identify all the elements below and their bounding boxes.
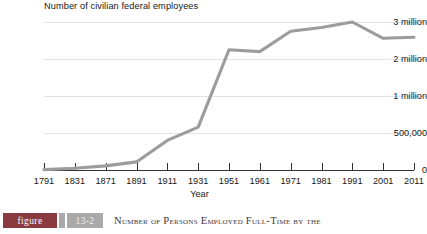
y-tick-label: 0: [385, 165, 427, 175]
x-tick-label: 1991: [342, 176, 362, 186]
x-tick-label: 1911: [157, 176, 177, 186]
x-tick-label: 1891: [126, 176, 146, 186]
x-tick-label: 2001: [373, 176, 393, 186]
y-tick-label: 2 million: [385, 54, 427, 64]
x-axis-title: Year: [0, 189, 427, 199]
caption-divider: [59, 213, 65, 228]
figure-caption-text: Number of Persons Employed Full-Time by …: [114, 215, 321, 226]
x-tick-label: 1931: [188, 176, 208, 186]
y-tick-label: 500,000: [385, 128, 427, 138]
x-axis-title-text: Year: [190, 189, 209, 199]
gridlines: [44, 23, 427, 134]
chart-panel: Number of civilian federal employees 050…: [0, 0, 427, 205]
x-tick-label: 1791: [34, 176, 54, 186]
x-tick-label: 1971: [280, 176, 300, 186]
figure-number-badge: 13-2: [67, 213, 103, 228]
x-tick-label: 2011: [404, 176, 424, 186]
x-tick-label: 1981: [311, 176, 331, 186]
x-tick-label: 1951: [219, 176, 239, 186]
figure-container: Number of civilian federal employees 050…: [0, 0, 427, 234]
y-tick-label: 3 million: [385, 17, 427, 27]
y-tick-label: 1 million: [385, 91, 427, 101]
data-series-line: [44, 22, 414, 170]
line-chart-plot: [0, 0, 427, 205]
figure-badge: figure: [3, 213, 57, 228]
x-tick-label: 1961: [250, 176, 270, 186]
x-tick-label: 1831: [65, 176, 85, 186]
figure-caption: figure 13-2 Number of Persons Employed F…: [0, 207, 427, 234]
x-tick-label: 1871: [95, 176, 115, 186]
